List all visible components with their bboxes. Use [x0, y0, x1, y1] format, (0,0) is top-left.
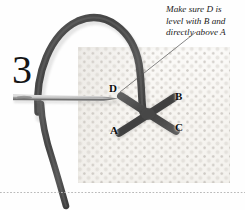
section-divider	[0, 192, 245, 193]
point-label-c: C	[175, 122, 183, 133]
sewing-needle	[13, 95, 118, 105]
point-label-d: D	[109, 83, 117, 94]
figure-canvas: 3 Make sure D is level with B and direct…	[0, 0, 245, 210]
embroidery-artwork	[0, 0, 245, 210]
stitch-center	[141, 108, 155, 120]
needle-eye	[16, 96, 32, 99]
point-label-a: A	[110, 125, 118, 136]
point-label-b: B	[175, 91, 182, 102]
